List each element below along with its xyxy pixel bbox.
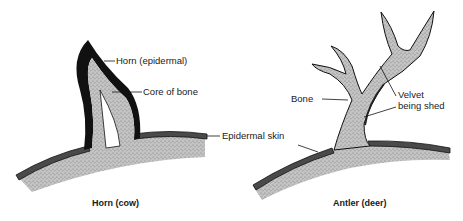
label-being-shed: being shed [398, 100, 444, 111]
label-velvet: Velvet [398, 89, 424, 100]
antler-bone [312, 11, 434, 150]
label-bone: Bone [291, 93, 313, 104]
label-horn-epidermal: Horn (epidermal) [116, 55, 187, 66]
bone-leader [322, 99, 348, 100]
label-epidermal-skin: Epidermal skin [222, 130, 284, 141]
label-core-of-bone: Core of bone [143, 86, 198, 97]
antler-skin-leader [298, 145, 318, 152]
horn-antler-diagram [0, 0, 463, 221]
caption-horn-cow: Horn (cow) [92, 198, 139, 208]
caption-antler-deer: Antler (deer) [333, 198, 387, 208]
